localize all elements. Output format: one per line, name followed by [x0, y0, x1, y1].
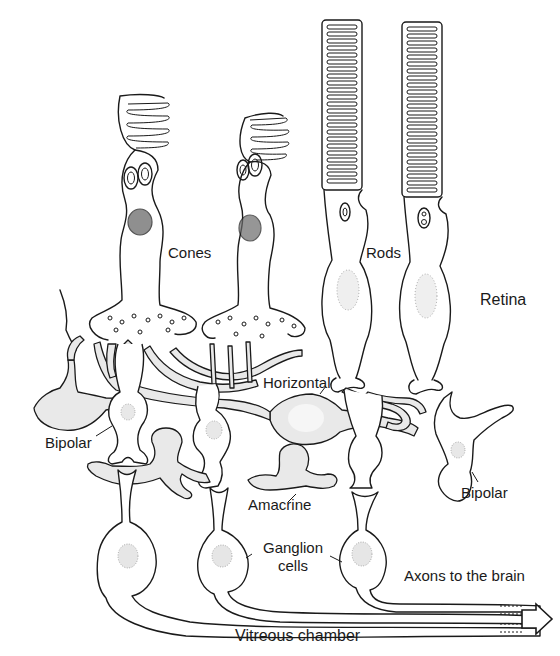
label-retina: Retina: [480, 292, 526, 308]
label-rods: Rods: [366, 245, 401, 260]
label-bipolar-right: Bipolar: [461, 485, 508, 500]
label-ganglion-line1: Ganglion: [253, 540, 333, 555]
label-cones: Cones: [168, 245, 211, 260]
ganglion-cell-right: [340, 492, 540, 612]
rod-cell-right: [400, 22, 451, 380]
amacrine-cell-right: [248, 444, 337, 490]
bipolar-cell-rods: [344, 390, 383, 488]
label-ganglion-cells: Ganglion cells: [253, 540, 333, 573]
label-horizontal: Horizontal: [263, 375, 331, 390]
amacrine-cell-left: [87, 428, 210, 499]
bipolar-right-leader: [472, 472, 478, 482]
rod-cell-left: [322, 20, 372, 378]
label-ganglion-line2: cells: [253, 558, 333, 573]
rod-spherule-right: [409, 380, 443, 394]
cone-cell-right: [202, 113, 305, 338]
label-axons: Axons to the brain: [404, 568, 525, 583]
label-bipolar-left: Bipolar: [45, 435, 92, 450]
bipolar-left-leader: [96, 426, 112, 436]
label-amacrine: Amacrine: [248, 497, 311, 512]
cone-cell-left: [90, 95, 197, 340]
label-vitreous-chamber: Vitreous chamber: [235, 628, 360, 644]
